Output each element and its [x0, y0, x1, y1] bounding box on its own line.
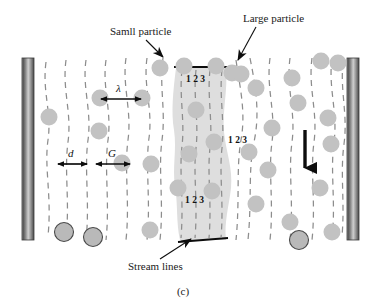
figure-caption: (c) [177, 285, 190, 298]
particle-small [260, 162, 277, 179]
particle-small [313, 53, 330, 70]
particle-small [323, 136, 340, 153]
particle-small [176, 58, 193, 75]
particle-small [114, 155, 131, 172]
particle-small [91, 123, 108, 140]
particle-small [41, 109, 58, 126]
marker-lower: 1 2 3 [185, 195, 204, 205]
lambda-label: λ [115, 82, 121, 94]
marker-top-label: 1 2 3 [186, 74, 205, 84]
g-label: G [108, 147, 116, 159]
particle-large [84, 228, 103, 247]
left-wall-bar [22, 58, 34, 240]
particle-small [188, 102, 205, 119]
particle-small [324, 224, 341, 241]
particle-small [312, 180, 329, 197]
particle-small [284, 70, 301, 87]
particle-small [170, 180, 187, 197]
particle-small [92, 90, 109, 107]
particle-small [152, 60, 169, 77]
d-label: d [68, 147, 74, 159]
particle-small [248, 80, 265, 97]
marker-middle-label: 1 2 3 [228, 135, 247, 145]
particle-small [143, 156, 160, 173]
particle-small [264, 120, 281, 137]
particle-small [290, 95, 307, 112]
left-wall [22, 58, 34, 240]
particle-small [142, 222, 159, 239]
particle-large [290, 231, 309, 250]
large-particle-label: Large particle [243, 12, 304, 24]
particle-small [233, 66, 250, 83]
particle-small [181, 146, 198, 163]
right-wall-bar [347, 58, 359, 240]
particle-small [320, 110, 337, 127]
right-wall [347, 58, 359, 240]
marker-middle: 1 2 3 [228, 135, 247, 145]
particle-small [330, 55, 347, 72]
particle-small [204, 183, 221, 200]
small-particle-label: Samll particle [110, 25, 172, 37]
figure-container: 1 2 3 1 2 3 1 2 3 λ d G Samll partic [0, 0, 381, 307]
particle-small [282, 214, 299, 231]
particle-small [208, 58, 225, 75]
marker-lower-label: 1 2 3 [185, 195, 204, 205]
particle-small [241, 144, 258, 161]
particle-small [248, 196, 265, 213]
particle-small [206, 134, 223, 151]
marker-top: 1 2 3 [186, 74, 205, 84]
particle-large [55, 223, 74, 242]
particle-small [134, 90, 151, 107]
particle-stream-diagram: 1 2 3 1 2 3 1 2 3 λ d G Samll partic [0, 0, 381, 307]
stream-lines-label: Stream lines [128, 260, 183, 272]
